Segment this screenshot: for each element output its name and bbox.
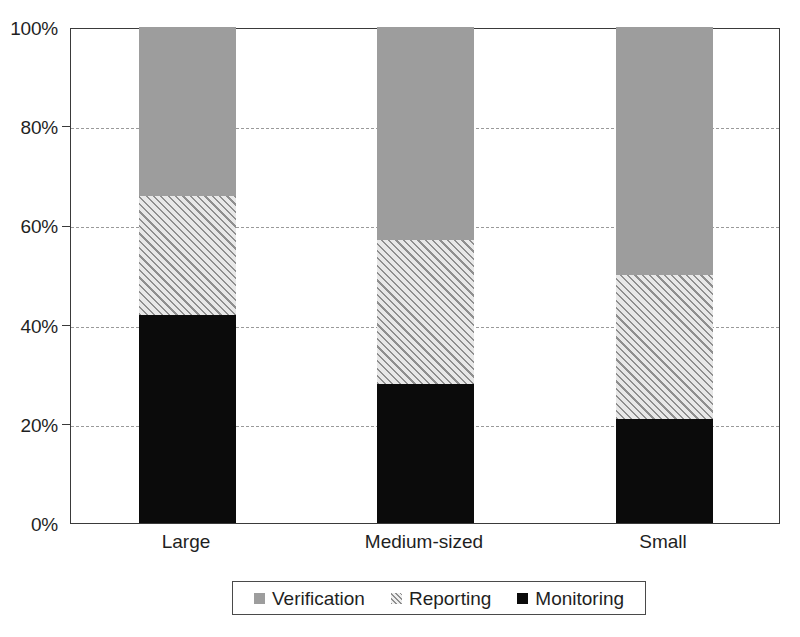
y-tick-label-60: 60% (0, 217, 58, 236)
hatched-square-icon (391, 593, 402, 604)
legend-item-monitoring[interactable]: Monitoring (517, 589, 624, 608)
y-tick-label-80: 80% (0, 118, 58, 137)
y-tick-label-20: 20% (0, 416, 58, 435)
bar-segment-medium-sized-monitoring[interactable] (377, 384, 474, 523)
x-tick-label-small: Small (593, 531, 733, 553)
bar-large[interactable] (139, 27, 236, 523)
y-tick-label-0: 0% (0, 515, 58, 534)
bar-segment-small-reporting[interactable] (616, 275, 713, 419)
bar-segment-medium-sized-verification[interactable] (377, 27, 474, 240)
x-tick-label-large: Large (116, 531, 256, 553)
y-tick-label-100: 100% (0, 19, 58, 38)
black-square-icon (517, 593, 528, 604)
x-tick-label-medium-sized: Medium-sized (354, 531, 494, 553)
bar-medium-sized[interactable] (377, 27, 474, 523)
legend-label-verification: Verification (272, 589, 365, 608)
legend-label-reporting: Reporting (409, 589, 491, 608)
gray-square-icon (254, 593, 265, 604)
chart-legend: Verification Reporting Monitoring (232, 581, 646, 615)
legend-item-verification[interactable]: Verification (254, 589, 365, 608)
bar-segment-small-verification[interactable] (616, 27, 713, 275)
y-tick-label-40: 40% (0, 317, 58, 336)
bar-small[interactable] (616, 27, 713, 523)
legend-label-monitoring: Monitoring (535, 589, 624, 608)
legend-item-reporting[interactable]: Reporting (391, 589, 491, 608)
bar-segment-medium-sized-reporting[interactable] (377, 240, 474, 384)
stacked-bar-chart: 100% 80% 60% 40% 20% 0% (0, 0, 800, 637)
plot-area (70, 28, 780, 524)
bar-segment-large-reporting[interactable] (139, 196, 236, 315)
bar-segment-large-verification[interactable] (139, 27, 236, 196)
bar-segment-large-monitoring[interactable] (139, 315, 236, 523)
bar-segment-small-monitoring[interactable] (616, 419, 713, 523)
